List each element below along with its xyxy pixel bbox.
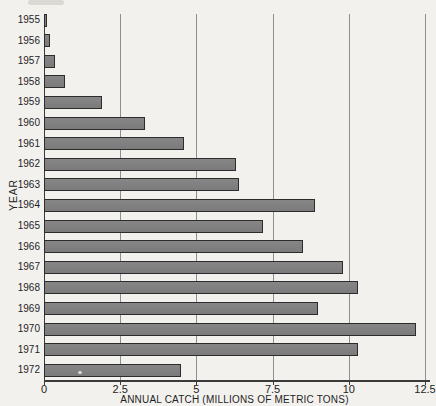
bar-row-1963 bbox=[44, 175, 425, 196]
plot-area bbox=[44, 10, 425, 381]
bar-row-1970 bbox=[44, 319, 425, 340]
scan-smudge bbox=[28, 0, 64, 5]
year-label-1961: 1961 bbox=[0, 134, 40, 155]
bars-container bbox=[44, 10, 425, 381]
bar-row-1966 bbox=[44, 237, 425, 258]
bar-1972 bbox=[44, 364, 181, 377]
gridline-12.5 bbox=[425, 14, 426, 381]
bar-row-1955 bbox=[44, 10, 425, 31]
bar-1965 bbox=[44, 220, 263, 233]
year-label-1972: 1972 bbox=[0, 360, 40, 381]
bar-row-1956 bbox=[44, 31, 425, 52]
year-label-1959: 1959 bbox=[0, 92, 40, 113]
bar-1967 bbox=[44, 261, 343, 274]
bar-1960 bbox=[44, 117, 145, 130]
year-label-1955: 1955 bbox=[0, 10, 40, 31]
year-label-1963: 1963 bbox=[0, 175, 40, 196]
year-label-1962: 1962 bbox=[0, 154, 40, 175]
year-label-1964: 1964 bbox=[0, 195, 40, 216]
bar-1957 bbox=[44, 55, 55, 68]
bar-1962 bbox=[44, 158, 236, 171]
bar-row-1969 bbox=[44, 299, 425, 320]
bar-1971 bbox=[44, 343, 358, 356]
bar-row-1964 bbox=[44, 195, 425, 216]
x-axis-title: ANNUAL CATCH (MILLIONS OF METRIC TONS) bbox=[44, 394, 425, 405]
bar-row-1965 bbox=[44, 216, 425, 237]
year-label-1970: 1970 bbox=[0, 319, 40, 340]
year-label-1968: 1968 bbox=[0, 278, 40, 299]
year-label-1969: 1969 bbox=[0, 299, 40, 320]
year-label-1960: 1960 bbox=[0, 113, 40, 134]
bar-row-1958 bbox=[44, 72, 425, 93]
bar-1959 bbox=[44, 96, 102, 109]
year-label-1956: 1956 bbox=[0, 31, 40, 52]
year-label-1967: 1967 bbox=[0, 257, 40, 278]
bar-1964 bbox=[44, 199, 315, 212]
bar-row-1971 bbox=[44, 340, 425, 361]
bar-1956 bbox=[44, 34, 50, 47]
bar-1969 bbox=[44, 302, 318, 315]
year-label-1957: 1957 bbox=[0, 51, 40, 72]
scan-speck bbox=[78, 371, 82, 374]
bar-1958 bbox=[44, 75, 65, 88]
bar-1955 bbox=[44, 14, 47, 27]
year-label-1958: 1958 bbox=[0, 72, 40, 93]
bar-1963 bbox=[44, 178, 239, 191]
bar-1968 bbox=[44, 281, 358, 294]
bar-row-1957 bbox=[44, 51, 425, 72]
bar-1966 bbox=[44, 240, 303, 253]
bar-row-1962 bbox=[44, 154, 425, 175]
bar-row-1959 bbox=[44, 92, 425, 113]
bar-row-1960 bbox=[44, 113, 425, 134]
bar-row-1968 bbox=[44, 278, 425, 299]
bar-row-1961 bbox=[44, 134, 425, 155]
year-label-1965: 1965 bbox=[0, 216, 40, 237]
bar-1961 bbox=[44, 137, 184, 150]
year-label-1971: 1971 bbox=[0, 340, 40, 361]
year-axis-labels: 1955195619571958195919601961196219631964… bbox=[0, 10, 40, 381]
bar-1970 bbox=[44, 323, 416, 336]
year-label-1966: 1966 bbox=[0, 237, 40, 258]
bar-row-1972 bbox=[44, 360, 425, 381]
bar-row-1967 bbox=[44, 257, 425, 278]
